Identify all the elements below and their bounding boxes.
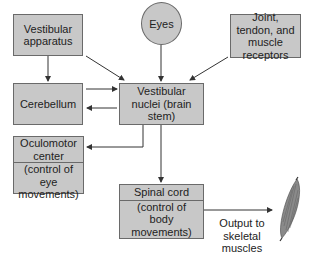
vestibular-nuclei-label: Vestibular nuclei (brain stem) bbox=[126, 85, 197, 123]
spinal-cord-title: Spinal cord bbox=[134, 186, 189, 199]
vestibular-apparatus-label: Vestibular apparatus bbox=[20, 23, 76, 48]
vestibular-pathway-diagram: Vestibular apparatus Eyes Joint, tendon,… bbox=[0, 0, 317, 266]
output-label: Output to skeletal muscles bbox=[214, 217, 270, 255]
node-joint-receptors: Joint, tendon, and muscle receptors bbox=[230, 14, 301, 58]
node-vestibular-apparatus: Vestibular apparatus bbox=[13, 14, 83, 56]
node-oculomotor-center: Oculomotor center (control of eye moveme… bbox=[13, 136, 84, 194]
arrow-nuclei-to-oculomotor bbox=[87, 125, 143, 147]
node-vestibular-nuclei: Vestibular nuclei (brain stem) bbox=[119, 83, 204, 125]
spinal-cord-subtitle: (control of body movements) bbox=[124, 201, 199, 239]
eyes-label: Eyes bbox=[149, 18, 173, 30]
arrow-joint-to-nuclei bbox=[190, 57, 228, 80]
oculomotor-subtitle: (control of eye movements) bbox=[16, 163, 81, 201]
joint-receptors-label: Joint, tendon, and muscle receptors bbox=[234, 11, 297, 61]
node-spinal-cord: Spinal cord (control of body movements) bbox=[119, 184, 204, 239]
cerebellum-label: Cerebellum bbox=[20, 98, 76, 111]
node-eyes: Eyes bbox=[141, 2, 182, 45]
muscle-icon bbox=[280, 177, 300, 241]
oculomotor-title: Oculomotor center bbox=[20, 137, 77, 162]
node-cerebellum: Cerebellum bbox=[13, 83, 83, 125]
arrow-apparatus-to-nuclei bbox=[86, 56, 124, 80]
